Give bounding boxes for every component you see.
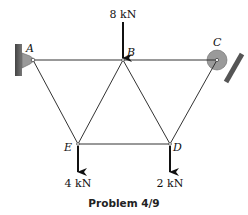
node-label-a: A xyxy=(25,42,34,55)
node-label-e: E xyxy=(63,141,72,154)
joint-e xyxy=(77,143,80,146)
truss-diagram: 8 kN 4 kN 2 kN A B C E D xyxy=(0,0,248,215)
truss-members xyxy=(33,60,217,144)
load-label-e: 4 kN xyxy=(65,177,92,190)
joint-b xyxy=(122,59,125,62)
member-bd xyxy=(123,60,170,144)
node-label-c: C xyxy=(213,36,222,49)
member-ae xyxy=(33,60,78,144)
load-label-d: 2 kN xyxy=(157,177,184,190)
node-label-b: B xyxy=(126,46,135,59)
joint-a xyxy=(31,58,35,62)
node-label-d: D xyxy=(172,141,182,154)
joints xyxy=(31,58,218,145)
support-c xyxy=(207,50,242,82)
figure-caption: Problem 4/9 xyxy=(0,197,248,209)
joint-d xyxy=(169,143,172,146)
load-arrows xyxy=(78,22,170,172)
joint-c xyxy=(215,58,218,61)
load-label-b: 8 kN xyxy=(110,8,137,21)
wall-right xyxy=(226,54,242,82)
member-cd xyxy=(170,60,217,144)
member-be xyxy=(78,60,123,144)
wall-left xyxy=(15,44,22,76)
